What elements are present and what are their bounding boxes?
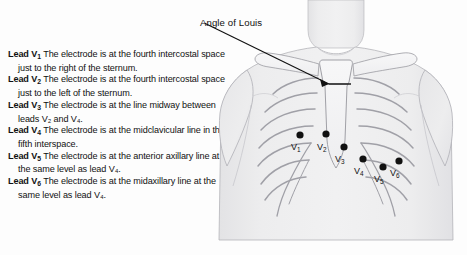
electrode-dot-v6[interactable]	[395, 157, 402, 164]
legend-entry-v1: Lead V1 The electrode is at the fourth i…	[8, 49, 226, 74]
legend-entry-v2: Lead V2 The electrode is at the fourth i…	[8, 74, 226, 99]
electrode-dot-v4[interactable]	[359, 155, 366, 162]
legend-lead-name-v2: Lead V2	[8, 74, 41, 84]
legend-lead-name-v5: Lead V5	[8, 151, 41, 161]
legend-lead-name-v6: Lead V6	[8, 176, 41, 186]
legend-entry-v5: Lead V5 The electrode is at the anterior…	[8, 151, 226, 176]
electrode-dot-v2[interactable]	[322, 130, 329, 137]
legend-entry-v3: Lead V3 The electrode is at the line mid…	[8, 100, 226, 125]
diagram-page: Lead V1 The electrode is at the fourth i…	[0, 0, 467, 255]
thorax-anatomy-figure: V1 V2 V3 V4 V5 V6	[205, 0, 467, 255]
legend-lead-name-v3: Lead V3	[8, 100, 41, 110]
legend-lead-text-v6: The electrode is at the midaxillary line…	[18, 176, 216, 200]
legend-lead-name-v1: Lead V1	[8, 49, 41, 59]
electrode-dot-v5[interactable]	[379, 163, 386, 170]
legend-entry-v6: Lead V6 The electrode is at the midaxill…	[8, 176, 226, 201]
electrode-dot-v3[interactable]	[340, 143, 347, 150]
legend-lead-text-v1: The electrode is at the fourth intercost…	[18, 49, 225, 73]
lead-placement-legend: Lead V1 The electrode is at the fourth i…	[8, 49, 226, 201]
legend-lead-text-v5: The electrode is at the anterior axillar…	[18, 151, 219, 175]
electrode-dot-v1[interactable]	[296, 131, 303, 138]
legend-entry-v4: Lead V4 The electrode is at the midclavi…	[8, 125, 226, 150]
legend-lead-text-v4: The electrode is at the midclavicular li…	[18, 125, 225, 149]
legend-lead-text-v2: The electrode is at the fourth intercost…	[18, 74, 225, 98]
legend-lead-text-v3: The electrode is at the line midway betw…	[18, 100, 216, 124]
legend-lead-name-v4: Lead V4	[8, 125, 41, 135]
